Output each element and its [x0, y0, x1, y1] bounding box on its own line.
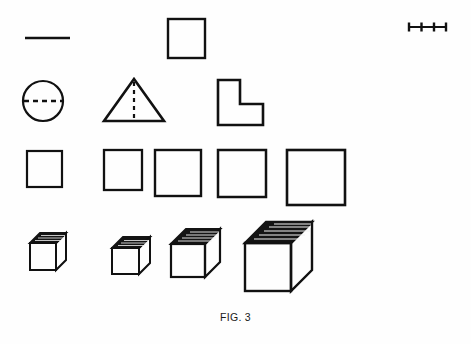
cube-size-3 [171, 229, 220, 277]
figure-drawing-canvas [0, 0, 471, 344]
row-symmetry-shapes [23, 79, 263, 125]
row-cube-size-series [30, 222, 312, 291]
row-square-size-series [27, 150, 345, 205]
figure-page: FIG. 3 [0, 0, 471, 344]
cube-size-4-front-face [245, 243, 291, 291]
cube-size-1-front-face [30, 243, 56, 270]
square-size-5 [287, 150, 345, 205]
square-size-2 [104, 150, 142, 190]
cube-size-2-front-face [112, 248, 139, 274]
cube-size-3-front-face [171, 244, 205, 277]
cube-size-1 [30, 233, 66, 270]
cube-size-2 [112, 237, 150, 274]
square-outline-top [168, 19, 205, 58]
square-size-4 [218, 150, 266, 197]
square-size-1 [27, 151, 62, 187]
row-primitives-and-scale [25, 19, 447, 58]
cube-size-4 [245, 222, 312, 291]
triangle-with-dashed-centerline [104, 79, 164, 121]
scale-bar [408, 23, 447, 32]
l-shape-polygon [218, 80, 263, 125]
figure-caption: FIG. 3 [0, 311, 471, 323]
square-size-3 [155, 150, 201, 196]
circle-with-dashed-diameter [23, 81, 63, 121]
